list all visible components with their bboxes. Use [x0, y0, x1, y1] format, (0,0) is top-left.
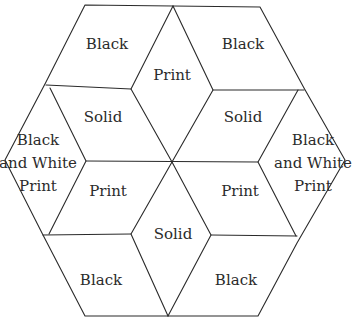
piece-lower-right-inner-label: Print: [221, 180, 259, 202]
right-side-line-2: and White: [274, 152, 352, 175]
left-side-line-2: and White: [0, 152, 77, 175]
piece-top-right-label: Black: [222, 33, 264, 55]
left-side-line-1: Black: [0, 129, 77, 152]
piece-right-side-label: Black and White Print: [274, 129, 352, 198]
piece-lower-left-inner-label: Print: [89, 180, 127, 202]
seam-lower-right: [211, 235, 297, 236]
seam-lower-left: [43, 234, 131, 235]
piece-bottom-right-label: Black: [215, 269, 257, 291]
left-side-line-3: Print: [0, 175, 77, 198]
right-side-line-1: Black: [274, 129, 352, 152]
piece-bottom-left-label: Black: [80, 269, 122, 291]
piece-bottom-center-label: Solid: [154, 223, 193, 245]
right-side-line-3: Print: [274, 175, 352, 198]
piece-top-left-label: Black: [86, 33, 128, 55]
piece-upper-right-inner-label: Solid: [224, 106, 263, 128]
piece-left-side-label: Black and White Print: [0, 129, 77, 198]
seam-upper-left: [46, 85, 131, 89]
piece-top-center-label: Print: [153, 64, 191, 86]
piece-upper-left-inner-label: Solid: [84, 106, 123, 128]
